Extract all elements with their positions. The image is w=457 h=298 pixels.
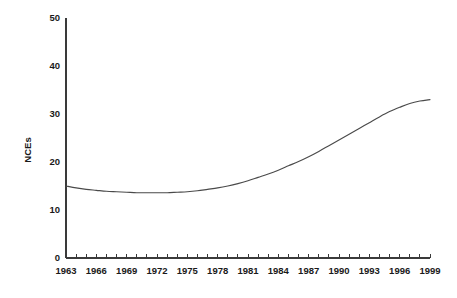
x-tick-label: 1969 [116,265,137,276]
y-tick-label: 10 [49,204,60,215]
line-chart: 01020304050 1963196619691972197519781981… [0,0,457,298]
y-tick-label: 50 [49,12,60,23]
x-tick-label: 1972 [146,265,167,276]
x-tick-label: 1981 [237,265,259,276]
y-tick-label: 40 [49,60,60,71]
y-axis-title: NCEs [22,137,33,162]
x-axis-group: 1963196619691972197519781981198419871990… [55,254,440,276]
y-tick-label: 0 [55,252,60,263]
x-axis-tick-labels: 1963196619691972197519781981198419871990… [55,265,440,276]
x-tick-label: 1987 [298,265,319,276]
plot-area [66,100,430,193]
x-tick-label: 1978 [207,265,228,276]
x-tick-label: 1999 [419,265,440,276]
chart-container: 01020304050 1963196619691972197519781981… [0,0,457,298]
x-tick-label: 1975 [177,265,199,276]
data-series-line [66,100,430,193]
x-tick-label: 1990 [328,265,349,276]
x-tick-label: 1966 [86,265,107,276]
x-axis-tick-marks [66,254,430,258]
x-tick-label: 1993 [359,265,380,276]
y-tick-label: 20 [49,156,60,167]
x-tick-label: 1984 [268,265,290,276]
y-axis-tick-labels: 01020304050 [49,12,60,263]
y-tick-label: 30 [49,108,60,119]
y-axis-group: 01020304050 [49,12,66,263]
x-tick-label: 1996 [389,265,410,276]
x-tick-label: 1963 [55,265,76,276]
